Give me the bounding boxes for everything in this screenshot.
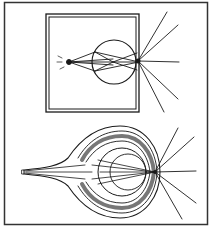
eye-internal-rays bbox=[92, 160, 155, 184]
camera-obscura-panel bbox=[46, 12, 179, 112]
internal-rays bbox=[69, 52, 139, 71]
external-rays bbox=[138, 12, 179, 112]
figure-frame bbox=[5, 3, 208, 225]
eye-external-rays bbox=[155, 128, 196, 219]
eye-panel bbox=[22, 126, 196, 219]
optic-nerve bbox=[22, 165, 92, 179]
optics-figure bbox=[0, 0, 214, 228]
